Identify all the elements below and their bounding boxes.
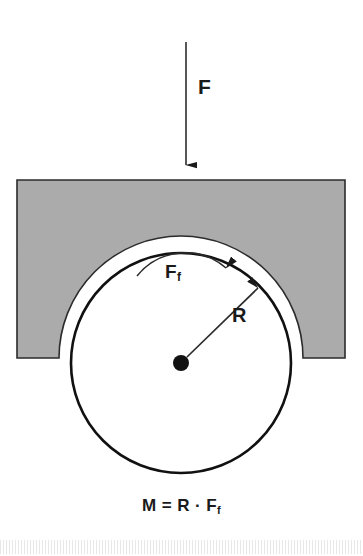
roller-center-hub-dot: [173, 355, 189, 371]
friction-force-label: Ff: [165, 262, 181, 283]
diagram-canvas: [0, 0, 363, 556]
equation-moment-symbol: M: [142, 496, 157, 515]
equation-dot-operator: ·: [195, 496, 201, 515]
friction-force-label-base: F: [165, 261, 177, 282]
moment-equation: M = R · Ff: [0, 496, 363, 516]
equation-friction-subscript: f: [217, 504, 221, 516]
applied-force-label: F: [198, 76, 211, 97]
friction-force-label-subscript: f: [177, 270, 181, 284]
physics-diagram-figure: F Ff R M = R · Ff: [0, 0, 363, 556]
equation-equals-sign: =: [162, 496, 172, 515]
equation-radius-symbol: R: [177, 496, 190, 515]
radius-label: R: [232, 305, 246, 325]
equation-friction-base: F: [206, 496, 217, 515]
